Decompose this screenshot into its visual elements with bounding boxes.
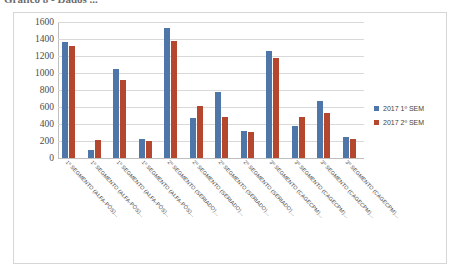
bar[interactable]: [350, 139, 356, 158]
bar[interactable]: [241, 131, 247, 158]
bar[interactable]: [120, 80, 126, 158]
bar[interactable]: [62, 42, 68, 158]
bar[interactable]: [171, 41, 177, 158]
bar[interactable]: [273, 58, 279, 158]
y-axis-tick-label: 800: [40, 85, 54, 95]
x-axis-tick-label: 1º SEGMENTO (ALFA-PÓS)...: [141, 159, 197, 218]
bar-group: [135, 22, 161, 158]
figure-caption: Gráfico 8 - Dados ...: [4, 0, 98, 5]
figure-caption-strip: Gráfico 8 - Dados ...: [0, 0, 460, 10]
x-axis-tick-label: 2º SEGMENTO (SERIADO)...: [243, 159, 297, 217]
bar[interactable]: [113, 69, 119, 158]
legend-item-label: 2017 2º SEM: [383, 119, 424, 126]
y-axis-tick-label: 1000: [35, 68, 54, 78]
y-axis-tick-label: 1200: [35, 51, 54, 61]
bar-group: [211, 22, 237, 158]
bar[interactable]: [266, 51, 272, 158]
bar[interactable]: [222, 117, 228, 158]
bar-series-group: [58, 22, 364, 158]
legend-item[interactable]: 2017 1º SEM: [374, 105, 444, 112]
legend-item-label: 2017 1º SEM: [383, 105, 424, 112]
bar-group: [186, 22, 212, 158]
legend-swatch-icon: [374, 120, 379, 125]
y-axis-tick-label: 400: [40, 119, 54, 129]
bar[interactable]: [292, 126, 298, 158]
x-axis-tick-label: 3º SEGMENTO (CAGECPM)...: [345, 159, 402, 219]
x-axis-tick-label: 3º SEGMENTO (CAGECPM)...: [294, 159, 351, 219]
y-axis-tick-label: 600: [40, 102, 54, 112]
bar[interactable]: [248, 132, 254, 158]
bar-group: [237, 22, 263, 158]
x-axis-tick-label: 2º SEGMENTO (SERIADO)...: [217, 159, 271, 217]
bar-group: [109, 22, 135, 158]
x-axis-tick-label: 1º SEGMENTO (ALFA-PÓS)...: [64, 159, 120, 218]
bar[interactable]: [164, 28, 170, 158]
x-axis-tick-label: 3º SEGMENTO (CAGECPM)...: [268, 159, 325, 219]
x-axis-tick-label: 2º SEGMENTO (SERIADO)...: [166, 159, 220, 217]
x-axis-tick-label: 3º SEGMENTO (CAGECPM)...: [319, 159, 376, 219]
bar-group: [84, 22, 110, 158]
x-axis-tick-label: 2º SEGMENTO (SERIADO)...: [192, 159, 246, 217]
y-axis-tick-label: 200: [40, 136, 54, 146]
bar[interactable]: [197, 106, 203, 158]
bar-group: [288, 22, 314, 158]
x-axis-tick-label: 1º SEGMENTO (ALFA-PÓS)...: [115, 159, 171, 218]
bar[interactable]: [324, 113, 330, 158]
chart-container: 16001400120010008006004002000 1º SEGMENT…: [13, 12, 447, 264]
x-axis-tick-label: 1º SEGMENTO (ALFA-PÓS)...: [90, 159, 146, 218]
bar[interactable]: [139, 139, 145, 158]
legend-swatch-icon: [374, 106, 379, 111]
bar-group: [313, 22, 339, 158]
y-axis-tick-label: 0: [49, 153, 54, 163]
y-axis-tick-label: 1600: [35, 17, 54, 27]
legend-item[interactable]: 2017 2º SEM: [374, 119, 444, 126]
x-axis-tick-labels: 1º SEGMENTO (ALFA-PÓS)...1º SEGMENTO (AL…: [58, 159, 364, 259]
bar-group: [262, 22, 288, 158]
y-axis-tick-label: 1400: [35, 34, 54, 44]
bar[interactable]: [317, 101, 323, 158]
chart-legend: 2017 1º SEM2017 2º SEM: [374, 105, 444, 133]
bar[interactable]: [146, 141, 152, 158]
bar[interactable]: [95, 140, 101, 158]
bar-group: [58, 22, 84, 158]
bar-group: [339, 22, 365, 158]
bar[interactable]: [190, 118, 196, 158]
plot-area: 16001400120010008006004002000: [58, 22, 364, 158]
bar[interactable]: [299, 117, 305, 158]
bar-group: [160, 22, 186, 158]
bar[interactable]: [69, 46, 75, 158]
bar[interactable]: [88, 150, 94, 159]
bar[interactable]: [343, 137, 349, 158]
bar[interactable]: [215, 92, 221, 158]
